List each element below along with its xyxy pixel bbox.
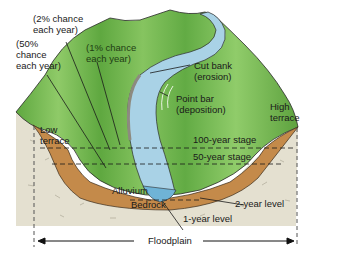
label-point-bar: Point bar (deposition) — [176, 93, 226, 115]
floodplain-diagram: (2% chance each year) (50% chance each y… — [0, 0, 338, 260]
label-high-terrace: High terrace — [270, 101, 300, 123]
label-2-year-level: 2-year level — [235, 198, 284, 209]
label-bedrock: Bedrock — [131, 199, 166, 210]
label-1-percent-chance: (1% chance each year) — [86, 42, 136, 64]
label-50-percent-chance: (50% chance each year) — [16, 38, 61, 71]
label-2-percent-chance: (2% chance each year) — [33, 13, 83, 35]
label-floodplain: Floodplain — [148, 235, 192, 246]
label-100-year-stage: 100-year stage — [193, 134, 256, 145]
label-low-terrace: Low terrace — [40, 124, 70, 146]
label-alluvium: Alluvium — [112, 185, 148, 196]
label-50-year-stage: 50-year stage — [193, 151, 251, 162]
label-cut-bank: Cut bank (erosion) — [194, 60, 232, 82]
label-1-year-level: 1-year level — [183, 213, 232, 224]
